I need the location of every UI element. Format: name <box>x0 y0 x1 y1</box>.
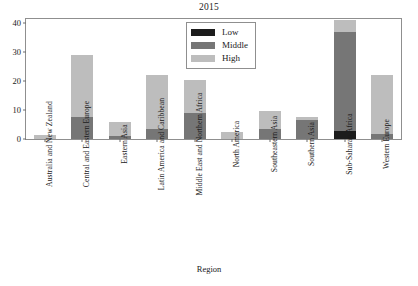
y-tick-label: 0 <box>17 134 21 144</box>
bar-segment-high[interactable] <box>296 117 318 120</box>
legend-label: Middle <box>222 41 248 50</box>
legend-item[interactable]: Middle <box>191 39 248 52</box>
x-tick-label-text: Middle East and Northern Africa <box>195 92 204 195</box>
legend-swatch-icon <box>191 29 215 36</box>
legend-label: Low <box>222 28 239 37</box>
x-axis-title: Region <box>0 264 418 274</box>
y-tick-label: 20 <box>13 76 22 86</box>
chart-container: 2015 010203040 Australia and New Zealand… <box>0 0 418 286</box>
legend-item[interactable]: High <box>191 52 248 65</box>
y-tick-label: 40 <box>13 18 22 28</box>
x-tick-label-text: Sub-Saharan Africa <box>345 113 354 174</box>
x-tick-label-text: Australia and New Zealand <box>45 101 54 187</box>
bar-segment-high[interactable] <box>334 20 356 32</box>
legend-item[interactable]: Low <box>191 26 248 39</box>
x-tick-label-text: North America <box>232 121 241 168</box>
legend-label: High <box>222 54 240 63</box>
x-tick-label-text: Eastern Asia <box>120 124 129 163</box>
x-tick-label-text: Latin America and Caribbean <box>157 98 166 190</box>
x-tick-label-text: Southeastern Asia <box>270 116 279 172</box>
chart-legend: LowMiddleHigh <box>186 22 256 69</box>
x-tick-label-text: Central and Eastern Europe <box>82 101 91 187</box>
chart-title: 2015 <box>0 2 418 12</box>
y-tick-label: 10 <box>13 105 22 115</box>
legend-swatch-icon <box>191 42 215 49</box>
x-tick-label-text: Southern Asia <box>307 122 316 166</box>
x-tick-label-text: Western Europe <box>382 119 391 169</box>
legend-swatch-icon <box>191 55 215 62</box>
bar-stack[interactable] <box>109 19 131 139</box>
y-tick-label: 30 <box>13 47 22 57</box>
